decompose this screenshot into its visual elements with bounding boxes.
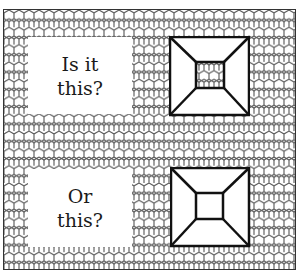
pyramid-figure-patterned	[169, 36, 250, 117]
question-box-2: Or this?	[28, 169, 132, 247]
illusion-frame: Is it this? Or this?	[3, 9, 296, 270]
pyramid-figure-blank	[170, 167, 251, 248]
question-box-1: Is it this?	[28, 37, 132, 114]
question-2-line-1: Or	[68, 184, 93, 208]
question-1-line-1: Is it	[61, 52, 98, 76]
question-1-line-2: this?	[57, 76, 103, 100]
question-2-line-2: this?	[57, 208, 103, 232]
